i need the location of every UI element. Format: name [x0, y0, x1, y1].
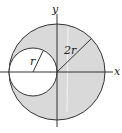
small-radius-label: r — [30, 55, 36, 68]
circle-diagram: y x 2r r — [0, 0, 122, 133]
big-radius-label: 2r — [63, 44, 77, 57]
x-axis-label: x — [114, 65, 121, 78]
y-axis-label: y — [51, 3, 59, 16]
